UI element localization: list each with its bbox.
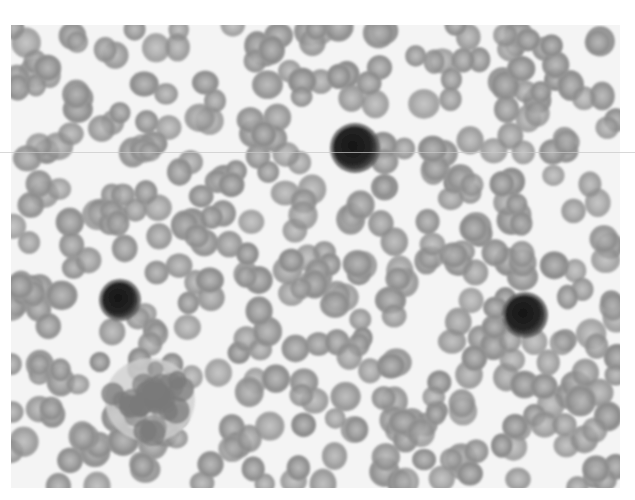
platelet: [141, 377, 165, 401]
red-blood-cell: [372, 386, 397, 410]
red-blood-cell: [457, 461, 483, 485]
red-blood-cell: [13, 145, 42, 171]
red-blood-cell: [418, 136, 447, 163]
red-blood-cell: [458, 288, 483, 314]
red-blood-cell: [408, 89, 440, 119]
red-blood-cell: [17, 192, 44, 218]
red-blood-cell: [112, 234, 138, 262]
red-blood-cell: [89, 352, 110, 373]
red-blood-cell: [572, 86, 597, 110]
red-blood-cell: [34, 55, 62, 82]
red-blood-cell: [109, 102, 130, 124]
red-blood-cell: [28, 353, 50, 376]
red-blood-cell: [572, 358, 600, 387]
red-blood-cell: [167, 158, 192, 186]
red-blood-cell: [499, 348, 525, 372]
red-blood-cell: [502, 414, 528, 439]
red-blood-cells: [11, 25, 620, 488]
red-blood-cell: [58, 122, 84, 145]
red-blood-cell: [561, 199, 586, 224]
red-blood-cell: [135, 110, 158, 133]
scan-line-artifact: [0, 152, 635, 153]
red-blood-cell: [291, 412, 316, 437]
red-blood-cell: [144, 260, 169, 284]
red-blood-cell: [557, 285, 578, 310]
red-blood-cell: [550, 330, 575, 355]
red-blood-cell: [345, 417, 369, 443]
red-blood-cell: [257, 161, 279, 183]
red-blood-cell: [578, 171, 601, 197]
red-blood-cell: [50, 358, 71, 381]
red-blood-cell: [272, 142, 300, 167]
red-blood-cell: [156, 115, 182, 140]
red-blood-cell: [66, 31, 88, 53]
red-blood-cell: [220, 25, 245, 37]
red-blood-cell: [11, 401, 24, 423]
red-blood-cell: [462, 345, 488, 371]
red-blood-cell: [489, 171, 514, 197]
red-blood-cell: [325, 408, 346, 429]
red-blood-cell: [385, 267, 410, 291]
platelet: [147, 361, 163, 377]
red-blood-cell: [515, 28, 540, 51]
red-blood-cell: [582, 455, 610, 483]
red-blood-cell: [130, 453, 155, 479]
red-blood-cell: [200, 206, 223, 230]
red-blood-cell: [251, 121, 277, 148]
red-blood-cell: [238, 210, 264, 234]
red-blood-cell: [218, 172, 244, 197]
red-blood-cell: [343, 250, 373, 278]
red-blood-cell: [524, 100, 550, 127]
red-blood-cell: [459, 214, 488, 243]
red-blood-cell: [252, 70, 283, 99]
red-blood-cell: [595, 116, 619, 139]
platelet: [119, 389, 145, 415]
red-blood-cell: [184, 224, 209, 248]
red-blood-cell: [582, 417, 608, 443]
red-blood-cell: [497, 122, 523, 149]
red-blood-cell: [144, 194, 172, 221]
red-blood-cell: [422, 386, 445, 408]
red-blood-cell: [262, 364, 290, 393]
red-blood-cell: [423, 49, 444, 74]
red-blood-cell: [258, 35, 285, 64]
red-blood-cell: [184, 104, 215, 132]
red-blood-cell: [197, 451, 224, 478]
red-blood-cell: [441, 68, 462, 92]
red-blood-cell: [530, 374, 558, 400]
red-blood-cell: [336, 342, 362, 370]
nucleated-cell-left: [99, 279, 141, 321]
red-blood-cell: [289, 383, 313, 406]
red-blood-cell: [245, 296, 272, 325]
red-blood-cell: [464, 439, 489, 463]
red-blood-cell: [346, 190, 375, 219]
red-blood-cell: [322, 442, 347, 470]
red-blood-cell: [540, 34, 563, 57]
red-blood-cell: [456, 126, 484, 154]
red-blood-cell: [291, 86, 313, 107]
red-blood-cell: [415, 209, 439, 235]
red-blood-cell: [327, 64, 351, 89]
red-blood-cell: [372, 443, 401, 471]
red-blood-cell: [124, 25, 146, 41]
red-blood-cell: [106, 210, 130, 236]
red-blood-cell: [565, 385, 597, 417]
red-blood-cell: [236, 242, 259, 265]
red-blood-cell: [59, 232, 84, 259]
red-blood-cell: [407, 418, 436, 447]
red-blood-cell: [589, 225, 618, 253]
red-blood-cell: [281, 335, 309, 363]
red-blood-cell: [235, 266, 257, 289]
nucleated-cell-top: [330, 123, 380, 173]
red-blood-cell: [373, 175, 395, 199]
red-blood-cell: [279, 248, 305, 272]
red-blood-cell: [11, 426, 39, 457]
red-blood-cell: [35, 313, 61, 339]
red-blood-cell: [448, 389, 475, 418]
red-blood-cell: [309, 468, 336, 488]
red-blood-cell: [69, 421, 97, 452]
red-blood-cell: [585, 29, 611, 55]
red-blood-cell: [368, 210, 394, 237]
red-blood-cell: [509, 241, 535, 268]
red-blood-cell: [46, 473, 72, 488]
